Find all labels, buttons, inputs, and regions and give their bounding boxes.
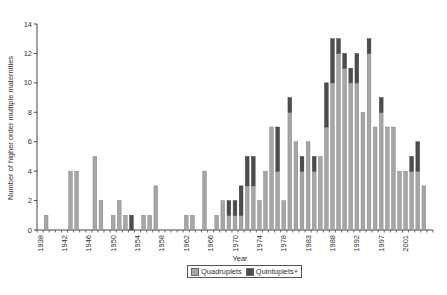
bar-quadruplets [69, 171, 73, 230]
bar-quintuplets [324, 83, 328, 127]
bar-quadruplets [276, 171, 280, 230]
x-tick-label: 1962 [182, 235, 191, 252]
bar-quadruplets [142, 215, 146, 230]
legend: Quadruplets Quintuplets+ [187, 265, 302, 278]
legend-label: Quintuplets+ [256, 267, 298, 276]
y-tick-label: 10 [24, 78, 32, 87]
bar-quadruplets [117, 201, 121, 230]
x-axis-title: Year [232, 254, 248, 263]
bar-quadruplets [416, 171, 420, 230]
bar-quadruplets [361, 112, 365, 230]
bar-quintuplets [288, 98, 292, 113]
bar-quadruplets [379, 112, 383, 230]
x-tick-label: 1938 [36, 235, 45, 252]
bar-quintuplets [416, 142, 420, 171]
bar-quadruplets [99, 201, 103, 230]
x-tick-label: 1970 [231, 235, 240, 252]
bar-quadruplets [343, 68, 347, 230]
bar-quintuplets [239, 186, 243, 215]
bars [44, 39, 426, 230]
bar-quadruplets [239, 215, 243, 230]
bar-quintuplets [337, 39, 341, 54]
bar-quadruplets [318, 156, 322, 230]
bar-quadruplets [300, 171, 304, 230]
bar-quadruplets [123, 215, 127, 230]
bar-quintuplets [245, 156, 249, 185]
bar-quintuplets [276, 127, 280, 171]
x-tick-label: 1988 [328, 235, 337, 252]
bar-quintuplets [410, 156, 414, 171]
bar-quadruplets [148, 215, 152, 230]
bar-quintuplets [355, 53, 359, 82]
bar-quadruplets [385, 127, 389, 230]
bar-quintuplets [312, 156, 316, 171]
bar-quadruplets [410, 171, 414, 230]
bar-quadruplets [324, 127, 328, 230]
bar-quadruplets [270, 127, 274, 230]
bar-quadruplets [190, 215, 194, 230]
bar-quadruplets [349, 83, 353, 230]
bar-quintuplets [343, 53, 347, 68]
bar-quintuplets [379, 98, 383, 113]
bar-quadruplets [245, 186, 249, 230]
x-tick-label: 1946 [84, 235, 93, 252]
bar-quintuplets [227, 201, 231, 216]
bar-quadruplets [75, 171, 79, 230]
stacked-bar-chart: 02468101214 1938194219461950195419581962… [0, 0, 447, 295]
bar-quadruplets [331, 83, 335, 230]
bar-quadruplets [355, 83, 359, 230]
x-tick-label: 1966 [206, 235, 215, 252]
quintuplets-swatch-icon [246, 268, 254, 276]
y-tick-label: 6 [28, 137, 32, 146]
quadruplets-swatch-icon [191, 268, 199, 276]
bar-quintuplets [251, 156, 255, 185]
bar-quadruplets [404, 171, 408, 230]
y-tick-label: 12 [24, 49, 32, 58]
bar-quadruplets [264, 171, 268, 230]
bar-quadruplets [282, 201, 286, 230]
bar-quadruplets [294, 142, 298, 230]
bar-quadruplets [312, 171, 316, 230]
y-axis: 02468101214 [24, 20, 37, 235]
bar-quadruplets [203, 171, 207, 230]
bar-quintuplets [331, 39, 335, 83]
bar-quintuplets [367, 39, 371, 54]
bar-quintuplets [130, 215, 134, 230]
bar-quadruplets [392, 127, 396, 230]
bar-quintuplets [300, 156, 304, 171]
bar-quadruplets [215, 215, 219, 230]
bar-quadruplets [44, 215, 48, 230]
bar-quadruplets [251, 186, 255, 230]
bar-quadruplets [93, 156, 97, 230]
x-tick-label: 1950 [109, 235, 118, 252]
bar-quadruplets [337, 53, 341, 230]
bar-quintuplets [349, 68, 353, 83]
bar-quadruplets [184, 215, 188, 230]
bar-quadruplets [367, 53, 371, 230]
bar-quadruplets [422, 186, 426, 230]
bar-quadruplets [373, 127, 377, 230]
x-tick-label: 1983 [304, 235, 313, 252]
x-tick-label: 1958 [157, 235, 166, 252]
y-tick-label: 14 [24, 20, 32, 29]
bar-quadruplets [233, 215, 237, 230]
x-tick-label: 1992 [352, 235, 361, 252]
bar-quadruplets [111, 215, 115, 230]
legend-item-quadruplets: Quadruplets [191, 267, 242, 276]
bar-quintuplets [233, 201, 237, 216]
bar-quadruplets [257, 201, 261, 230]
x-tick-label: 2001 [401, 235, 410, 252]
x-axis: 1938194219461950195419581962196619701974… [36, 230, 433, 252]
legend-item-quintuplets: Quintuplets+ [246, 267, 298, 276]
bar-quadruplets [398, 171, 402, 230]
y-tick-label: 8 [28, 108, 32, 117]
bar-quadruplets [221, 201, 225, 230]
x-tick-label: 1954 [133, 235, 142, 252]
y-axis-title: Number of higher order multiple maternit… [6, 56, 15, 200]
y-tick-label: 2 [28, 196, 32, 205]
y-tick-label: 0 [28, 226, 32, 235]
x-tick-label: 1942 [60, 235, 69, 252]
x-tick-label: 1974 [255, 235, 264, 252]
x-tick-label: 1978 [279, 235, 288, 252]
bar-quadruplets [288, 112, 292, 230]
